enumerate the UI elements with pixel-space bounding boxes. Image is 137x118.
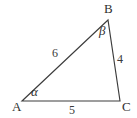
vertex-label-c: C bbox=[122, 100, 131, 113]
vertex-label-a: A bbox=[12, 100, 21, 113]
side-length-label-ab: 6 bbox=[52, 47, 58, 59]
triangle-diagram: A B C 6 4 5 α β bbox=[0, 0, 137, 118]
vertex-label-b: B bbox=[104, 2, 113, 15]
angle-label-beta: β bbox=[99, 24, 105, 37]
side-length-label-ac: 5 bbox=[69, 104, 75, 116]
side-length-label-bc: 4 bbox=[117, 53, 123, 65]
angle-label-alpha: α bbox=[31, 85, 38, 98]
